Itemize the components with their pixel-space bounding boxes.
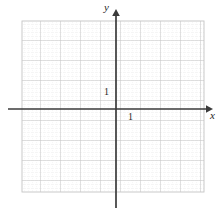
coordinate-plane-svg	[0, 0, 219, 208]
y-axis-label: y	[104, 2, 109, 13]
graph-figure: y x 1 1	[0, 0, 219, 208]
x-axis-label: x	[210, 110, 215, 121]
y-axis-unit-tick-label: 1	[104, 87, 109, 97]
grid-area	[22, 21, 204, 192]
x-axis-unit-tick-label: 1	[128, 112, 133, 122]
